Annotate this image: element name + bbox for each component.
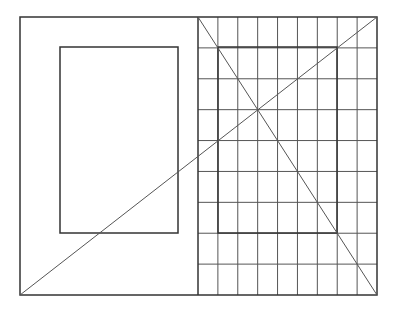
left-page-text-block bbox=[60, 47, 178, 233]
diagonal-line bbox=[198, 17, 377, 295]
page-layout-grid-diagram bbox=[0, 0, 395, 310]
